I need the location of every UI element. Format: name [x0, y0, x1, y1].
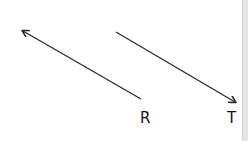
vector-diagram — [0, 0, 248, 141]
vector-r-label: R — [140, 111, 150, 126]
vector-t-label: T — [227, 111, 236, 126]
vector-t-arrow — [116, 32, 235, 102]
window-edge — [242, 0, 248, 141]
vector-r-arrow — [23, 31, 141, 99]
